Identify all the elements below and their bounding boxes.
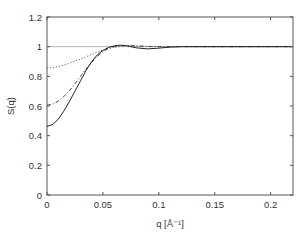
y-axis-label: S(q) bbox=[5, 97, 16, 115]
x-tick-label: 0 bbox=[44, 199, 49, 210]
x-tick-label: 0.2 bbox=[264, 199, 277, 210]
series-dotted bbox=[47, 46, 293, 68]
x-tick-label: 0.05 bbox=[94, 199, 113, 210]
plot-area-border bbox=[47, 17, 293, 195]
y-tick-label: 0.2 bbox=[29, 160, 42, 171]
y-tick-label: 0 bbox=[37, 190, 42, 201]
series-layer bbox=[47, 45, 293, 126]
y-tick-label: 0.4 bbox=[29, 130, 42, 141]
series-solid bbox=[47, 45, 293, 126]
x-axis-label: q [Å⁻¹] bbox=[156, 218, 184, 229]
x-tick-label: 0.1 bbox=[152, 199, 165, 210]
plot-frame bbox=[47, 17, 293, 195]
y-tick-label: 1 bbox=[37, 41, 42, 52]
axis-ticks: 00.050.10.150.200.20.40.60.811.2 bbox=[29, 12, 293, 211]
chart: 00.050.10.150.200.20.40.60.811.2 q [Å⁻¹]… bbox=[0, 0, 306, 235]
x-tick-label: 0.15 bbox=[205, 199, 224, 210]
y-tick-label: 0.8 bbox=[29, 71, 42, 82]
y-tick-label: 0.6 bbox=[29, 101, 42, 112]
y-tick-label: 1.2 bbox=[29, 12, 42, 23]
